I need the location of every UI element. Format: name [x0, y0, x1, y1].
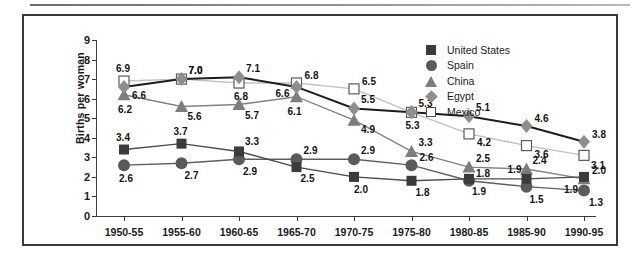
x-tickmark-1960-65 — [239, 216, 240, 221]
value-label-spain-1970-75: 2.9 — [361, 145, 375, 156]
value-label-egypt-1990-95: 3.8 — [592, 128, 606, 139]
marker-united-states-1960-65 — [234, 146, 244, 156]
legend-marker-glyph — [426, 107, 436, 117]
marker-egypt-1970-75 — [348, 101, 360, 115]
square-open-icon — [424, 105, 438, 119]
legend-label: Spain — [447, 59, 474, 71]
y-tickmark-7 — [92, 79, 97, 80]
marker-united-states-1970-75 — [349, 172, 359, 182]
marker-spain-1990-95 — [578, 185, 590, 197]
x-tickmark-1980-85 — [469, 216, 470, 221]
marker-china-1970-75 — [348, 114, 361, 126]
x-tick-1990-95: 1990-95 — [544, 226, 624, 238]
value-label-mexico-1980-85: 4.2 — [477, 136, 491, 147]
value-label-egypt-1970-75: 5.5 — [361, 94, 375, 105]
value-label-china-1970-75: 4.9 — [361, 124, 375, 135]
diamond-filled-icon — [424, 89, 438, 103]
value-label-united-states-1975-80: 1.8 — [416, 186, 430, 197]
value-label-mexico-1950-55: 6.9 — [116, 63, 130, 74]
value-label-spain-1980-85: 1.8 — [476, 167, 490, 178]
value-label-mexico-1990-95: 3.1 — [591, 160, 605, 171]
value-label-mexico-1970-75: 6.5 — [362, 75, 376, 86]
value-label-spain-1990-95: 1.3 — [589, 196, 603, 207]
x-tickmark-1985-90 — [527, 216, 528, 221]
value-label-china-1975-80: 3.3 — [419, 137, 433, 148]
x-tickmark-1970-75 — [354, 216, 355, 221]
series-lines-and-markers — [24, 16, 620, 248]
y-tickmark-9 — [92, 40, 97, 41]
marker-egypt-1985-90 — [521, 119, 533, 133]
value-label-united-states-1980-85: 1.9 — [472, 185, 486, 196]
marker-mexico-1990-95 — [579, 150, 589, 160]
value-label-united-states-1950-55: 3.4 — [116, 131, 130, 142]
legend-item-egypt: Egypt — [424, 89, 510, 105]
chart-figure-frame: Births per woman 0123456789 3.43.73.32.5… — [22, 14, 618, 246]
x-tickmark-1975-80 — [412, 216, 413, 221]
marker-united-states-1975-80 — [407, 176, 417, 186]
marker-mexico-1970-75 — [349, 84, 359, 94]
value-label-mexico-1985-90: 3.6 — [535, 148, 549, 159]
value-label-spain-1985-90: 1.5 — [530, 193, 544, 204]
value-label-united-states-1955-60: 3.7 — [174, 125, 188, 136]
y-tickmark-1 — [92, 196, 97, 197]
value-label-united-states-1985-90: 1.9 — [508, 163, 522, 174]
value-label-united-states-1970-75: 2.0 — [354, 183, 368, 194]
value-label-china-1950-55: 6.2 — [118, 103, 132, 114]
marker-united-states-1980-85 — [464, 174, 474, 184]
legend-label: United States — [447, 44, 510, 56]
x-tickmark-1955-60 — [182, 216, 183, 221]
marker-united-states-1955-60 — [177, 139, 187, 149]
marker-china-1975-80 — [405, 145, 418, 157]
square-filled-icon — [424, 43, 438, 57]
value-label-china-1955-60: 5.6 — [188, 111, 202, 122]
chart-legend: United StatesSpainChinaEgyptMexico — [424, 42, 510, 120]
value-label-spain-1955-60: 2.7 — [185, 170, 199, 181]
top-divider-rule — [30, 4, 630, 6]
x-tickmark-1965-70 — [297, 216, 298, 221]
legend-item-china: China — [424, 73, 510, 89]
value-label-spain-1950-55: 2.6 — [119, 173, 133, 184]
legend-marker-glyph — [425, 90, 438, 103]
value-label-china-1990-95: 1.9 — [564, 183, 578, 194]
x-tickmark-1950-55 — [124, 216, 125, 221]
y-tickmark-8 — [92, 60, 97, 61]
legend-label: Mexico — [447, 106, 480, 118]
marker-united-states-1990-95 — [579, 172, 589, 182]
value-label-spain-1960-65: 2.9 — [243, 166, 257, 177]
value-label-mexico-1960-65: 6.8 — [234, 91, 248, 102]
y-tickmark-0 — [92, 216, 97, 217]
value-label-china-1980-85: 2.5 — [476, 153, 490, 164]
marker-spain-1955-60 — [176, 157, 188, 169]
marker-mexico-1985-90 — [522, 141, 532, 151]
marker-united-states-1950-55 — [119, 145, 129, 155]
legend-item-united-states: United States — [424, 42, 510, 58]
value-label-egypt-1950-55: 6.6 — [132, 89, 146, 100]
value-label-mexico-1965-70: 6.8 — [305, 70, 319, 81]
legend-label: China — [447, 75, 474, 87]
value-label-spain-1965-70: 2.9 — [304, 145, 318, 156]
value-label-united-states-1965-70: 2.5 — [301, 173, 315, 184]
legend-marker-glyph — [426, 60, 437, 71]
value-label-china-1960-65: 5.7 — [245, 109, 259, 120]
marker-united-states-1985-90 — [522, 174, 532, 184]
y-tickmark-3 — [92, 157, 97, 158]
plot-area: Births per woman 0123456789 3.43.73.32.5… — [24, 16, 620, 248]
marker-mexico-1980-85 — [464, 129, 474, 139]
marker-spain-1975-80 — [406, 159, 418, 171]
value-label-mexico-1975-80: 5.3 — [406, 120, 420, 131]
value-label-united-states-1960-65: 3.3 — [245, 136, 259, 147]
value-label-mexico-1955-60: 7.0 — [189, 65, 203, 76]
y-tickmark-6 — [92, 99, 97, 100]
value-label-egypt-1965-70: 6.6 — [276, 87, 290, 98]
triangle-filled-icon — [424, 74, 438, 88]
value-label-spain-1975-80: 2.6 — [420, 152, 434, 163]
y-tickmark-4 — [92, 138, 97, 139]
circle-filled-icon — [424, 58, 438, 72]
legend-label: Egypt — [447, 90, 474, 102]
y-tickmark-2 — [92, 177, 97, 178]
value-label-egypt-1960-65: 7.1 — [246, 63, 260, 74]
y-tickmark-5 — [92, 118, 97, 119]
legend-item-spain: Spain — [424, 58, 510, 74]
x-tickmark-1990-95 — [584, 216, 585, 221]
marker-egypt-1990-95 — [578, 135, 590, 149]
